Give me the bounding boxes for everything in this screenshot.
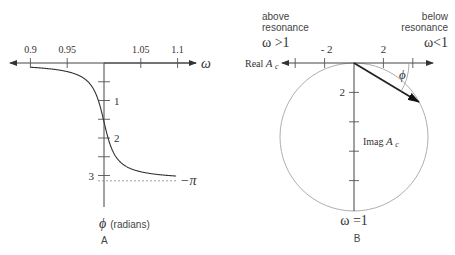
panel-b-caption: B [354, 233, 361, 244]
phase-curve [30, 67, 176, 176]
omega-axis-label: ω [201, 56, 211, 71]
phase-axis-label: ϕ (radians) [99, 214, 150, 231]
real-axis-prefix: Real [245, 58, 266, 69]
imag-tick-label: 2 [340, 86, 346, 98]
omega-tick-label: 0.95 [58, 44, 76, 55]
omega-less-than-one: ω<1 [424, 35, 448, 50]
panel-a-caption: A [101, 235, 108, 246]
omega-tick-label: 0.9 [24, 44, 37, 55]
minus-pi-label: −π [180, 173, 197, 188]
phase-angle-label: ϕ [399, 67, 406, 82]
below-resonance-line2: resonance [401, 22, 448, 33]
real-axis-subscript: c [275, 62, 279, 71]
below-resonance-line1: below [422, 11, 449, 22]
imag-axis-ticks: 2 [340, 86, 360, 180]
real-axis-label: Real A c [245, 57, 279, 71]
omega-tick-label: 1.1 [171, 44, 184, 55]
omega-equals-one-label: ω =1 [340, 213, 368, 228]
imag-axis-subscript: c [395, 140, 399, 149]
panel-b-complex-plane: above resonance ω >1 below resonance ω<1… [245, 11, 449, 244]
phase-tick-label: 3 [89, 170, 95, 182]
panel-a-phase-plot: ω 0.90.951.051.1 123 −π ϕ (radians) A [10, 44, 211, 246]
real-tick-label: 2 [381, 43, 387, 55]
imag-axis-label: Imag A c [363, 135, 399, 149]
real-axis-symbol: A [265, 57, 273, 69]
imag-axis-prefix: Imag [363, 136, 386, 147]
imag-axis-symbol: A [385, 135, 393, 147]
above-resonance-line2: resonance [262, 22, 309, 33]
radians-unit: (radians) [110, 219, 149, 230]
response-vector [354, 63, 419, 102]
phase-tick-label: 2 [114, 132, 120, 144]
omega-tick-label: 1.05 [132, 44, 150, 55]
above-resonance-line1: above [262, 11, 290, 22]
omega-greater-than-one: ω >1 [262, 35, 290, 50]
phase-tick-label: 1 [114, 95, 120, 107]
phi-symbol: ϕ [99, 216, 106, 231]
figure: ω 0.90.951.051.1 123 −π ϕ (radians) A ab… [0, 0, 455, 255]
real-tick-label: - 2 [321, 43, 333, 55]
